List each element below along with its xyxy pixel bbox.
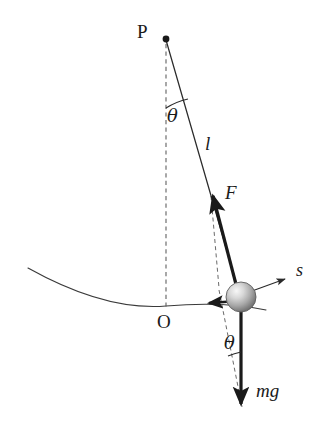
origin-label: O [157, 312, 171, 331]
pendulum-figure: P O l F s mg θ θ [0, 0, 330, 447]
tension-force-arrow [213, 196, 238, 292]
arc-coordinate-arrow [252, 279, 285, 291]
pivot-point-dot [163, 36, 170, 43]
pendulum-diagram-canvas [0, 0, 330, 447]
angle-label-top: θ [167, 107, 178, 125]
angle-label-bottom: θ [224, 334, 235, 352]
pendulum-bob [226, 282, 256, 312]
arc-coordinate-label: s [296, 261, 303, 279]
string-length-label: l [205, 134, 210, 153]
weight-force-label: mg [256, 381, 279, 400]
tension-force-label: F [225, 183, 237, 202]
pivot-label: P [137, 22, 148, 41]
